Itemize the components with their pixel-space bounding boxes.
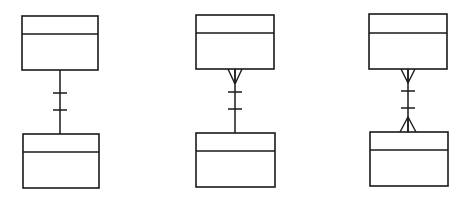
entity-top-2-box [196, 15, 274, 69]
entity-top-1 [22, 16, 98, 70]
relationship-one-to-one [22, 16, 99, 188]
er-diagram-canvas [0, 0, 472, 197]
crows-foot-many-icon-bottom [400, 117, 416, 132]
entity-bottom-1-box [23, 134, 99, 188]
relationship-many-to-one [196, 15, 275, 187]
crows-foot-many-icon-top [228, 69, 242, 84]
entity-top-3-box [369, 14, 447, 69]
entity-bottom-1 [23, 134, 99, 188]
entity-bottom-3-box [370, 132, 448, 186]
relationship-many-to-many [369, 14, 448, 186]
entity-bottom-2 [196, 133, 275, 187]
entity-top-1-box [22, 16, 98, 70]
entity-bottom-3 [370, 132, 448, 186]
entity-top-3 [369, 14, 447, 69]
entity-top-2 [196, 15, 274, 69]
entity-bottom-2-box [196, 133, 275, 187]
crows-foot-many-icon-top [401, 69, 415, 83]
